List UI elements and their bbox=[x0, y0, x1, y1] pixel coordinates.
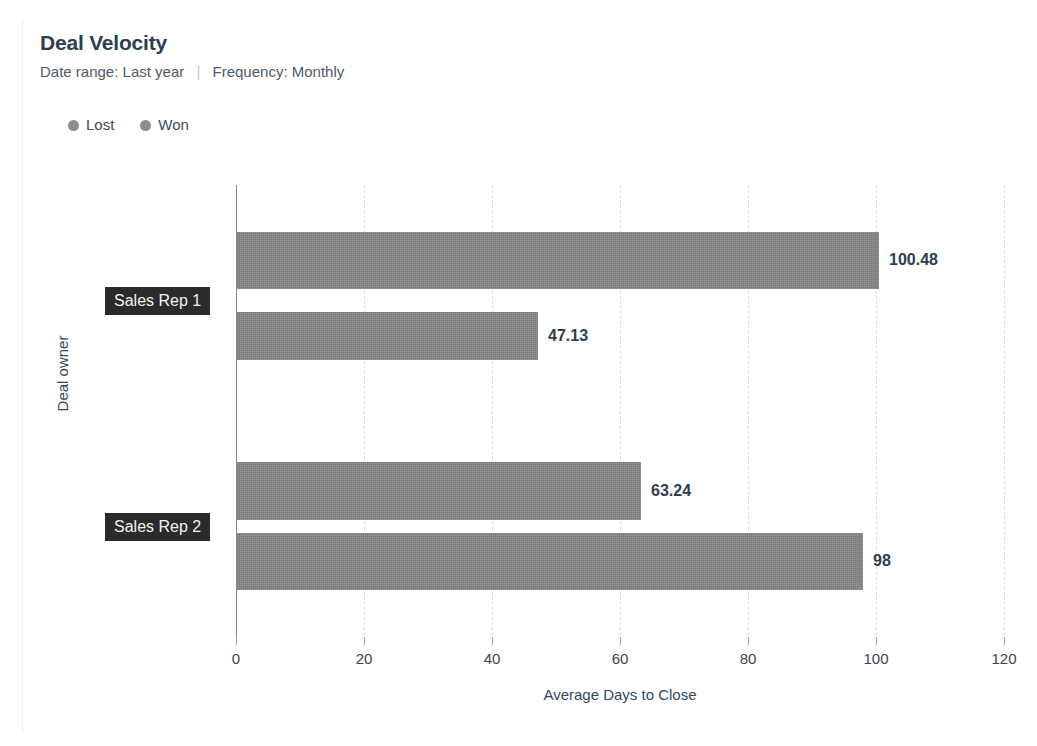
x-tick-label: 120 bbox=[991, 650, 1016, 667]
x-tick-mark-0 bbox=[236, 637, 237, 645]
subtitle-separator: | bbox=[196, 62, 200, 82]
legend-item-label: Won bbox=[158, 116, 189, 134]
page-title: Deal Velocity bbox=[40, 30, 940, 56]
card-header: Deal Velocity Date range: Last year | Fr… bbox=[40, 30, 940, 82]
circle-icon bbox=[140, 120, 151, 131]
x-tick-mark-100 bbox=[876, 637, 877, 645]
bar-value-label: 47.13 bbox=[548, 327, 588, 345]
bar-value-label: 63.24 bbox=[651, 482, 691, 500]
bar-value-label: 100.48 bbox=[889, 251, 938, 269]
chart-subtitle: Date range: Last year | Frequency: Month… bbox=[40, 62, 940, 82]
x-tick-label: 0 bbox=[232, 650, 240, 667]
x-tick-label: 20 bbox=[356, 650, 373, 667]
x-tick-label: 80 bbox=[740, 650, 757, 667]
chart-plot-area: 100.48 47.13 63.24 98 bbox=[236, 185, 1004, 635]
category-label-sales-rep-2: Sales Rep 2 bbox=[105, 513, 210, 541]
legend-item-won[interactable]: Won bbox=[140, 116, 189, 134]
date-range-text: Date range: Last year bbox=[40, 63, 184, 80]
bar-value-label: 98 bbox=[873, 552, 891, 570]
x-tick-mark-80 bbox=[748, 637, 749, 645]
x-tick-mark-120 bbox=[1004, 637, 1005, 645]
circle-icon bbox=[68, 120, 79, 131]
category-label-sales-rep-1: Sales Rep 1 bbox=[105, 287, 210, 315]
x-tick-mark-40 bbox=[492, 637, 493, 645]
frequency-text: Frequency: Monthly bbox=[213, 63, 345, 80]
x-tick-label: 60 bbox=[612, 650, 629, 667]
bar-sales-rep-1-lost[interactable] bbox=[236, 232, 879, 289]
y-axis-title: Deal owner bbox=[54, 294, 71, 454]
chart-legend: Lost Won bbox=[68, 116, 189, 134]
x-tick-label: 40 bbox=[484, 650, 501, 667]
x-tick-mark-20 bbox=[364, 637, 365, 645]
legend-item-label: Lost bbox=[86, 116, 114, 134]
bar-sales-rep-1-won[interactable] bbox=[236, 312, 538, 360]
deal-velocity-card: Deal Velocity Date range: Last year | Fr… bbox=[0, 0, 1037, 746]
x-tick-mark-60 bbox=[620, 637, 621, 645]
card-left-border bbox=[22, 20, 23, 732]
x-tick-label: 100 bbox=[863, 650, 888, 667]
x-axis-title: Average Days to Close bbox=[236, 686, 1004, 703]
gridline-120 bbox=[1004, 185, 1005, 635]
bar-sales-rep-2-lost[interactable] bbox=[236, 462, 641, 520]
legend-item-lost[interactable]: Lost bbox=[68, 116, 114, 134]
bar-sales-rep-2-won[interactable] bbox=[236, 533, 863, 590]
